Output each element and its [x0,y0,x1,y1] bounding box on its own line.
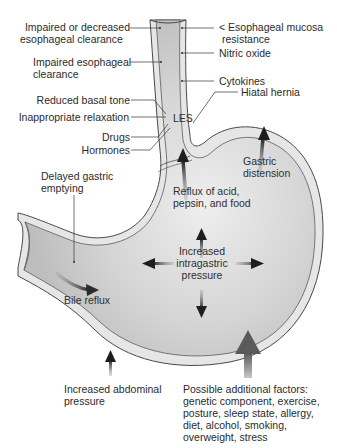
label-reflux: Reflux of acid, pepsin, and food [173,185,251,209]
label-additional-factors: Possible additional factors: genetic com… [183,383,320,443]
label-line: intragastric [170,257,234,269]
label-nitric-oxide: Nitric oxide [219,47,271,59]
label-impaired-clearance: Impaired esophageal clearance [33,56,131,80]
label-line: < Esophageal mucosa [219,21,323,33]
label-line: clearance [33,68,131,80]
abdominal-pressure-arrow-icon [105,350,116,376]
label-line: esophageal clearance [20,33,130,45]
label-les: LES [173,112,193,124]
label-bile-reflux: Bile reflux [64,294,110,306]
label-line: emptying [41,182,113,194]
label-reduced-basal-tone: Reduced basal tone [20,94,130,106]
label-line: Possible additional factors: [183,383,320,395]
label-line: distension [243,167,290,179]
label-gastric-distension: Gastric distension [243,155,290,179]
label-line: Delayed gastric [41,170,113,182]
label-line: pressure [64,395,161,407]
label-mucosa-resistance: < Esophageal mucosa resistance [219,21,323,45]
label-line: overweight, stress [183,431,320,443]
label-line: Increased abdominal [64,383,161,395]
label-intragastric-pressure: Increased intragastric pressure [170,245,234,281]
label-line: Increased [170,245,234,257]
label-line: pepsin, and food [173,197,251,209]
label-line: Impaired esophageal [33,56,131,68]
label-inappropriate-relaxation: Inappropriate relaxation [0,111,129,123]
label-line: Reflux of acid, [173,185,251,197]
label-line: genetic component, exercise, [183,395,320,407]
label-hormones: Hormones [50,144,130,156]
label-delayed-gastric-emptying: Delayed gastric emptying [41,170,113,194]
label-impaired-decreased-clearance: Impaired or decreased esophageal clearan… [20,21,130,45]
label-line: Gastric [243,155,290,167]
label-line: diet, alcohol, smoking, [183,419,320,431]
label-drugs: Drugs [60,131,130,143]
label-line: pressure [170,269,234,281]
label-line: posture, sleep state, allergy, [183,407,320,419]
label-line: Impaired or decreased [20,21,130,33]
label-hiatal-hernia: Hiatal hernia [241,86,300,98]
label-abdominal-pressure: Increased abdominal pressure [64,383,161,407]
label-line: resistance [219,33,323,45]
